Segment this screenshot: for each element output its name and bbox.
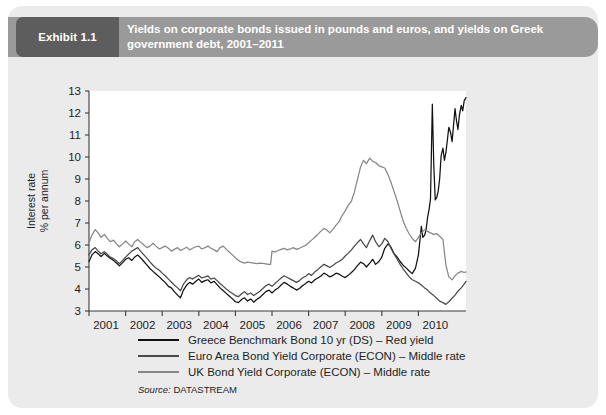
legend-label-euro-area: Euro Area Bond Yield Corporate (ECON) – … <box>188 350 465 362</box>
legend-item-uk: UK Bond Yield Corporate (ECON) – Middle … <box>138 364 558 380</box>
source-line: Source: DATASTREAM <box>138 384 237 395</box>
exhibit-badge-label: Exhibit 1.1 <box>38 31 97 43</box>
svg-text:% per annum: % per annum <box>38 170 50 233</box>
svg-text:2001: 2001 <box>93 319 119 331</box>
plot-background <box>89 91 466 311</box>
chart-plot-area: 345678910111213 200120022003200420052006… <box>8 64 598 334</box>
svg-text:2006: 2006 <box>276 319 302 331</box>
svg-text:2003: 2003 <box>166 319 192 331</box>
legend-item-euro-area: Euro Area Bond Yield Corporate (ECON) – … <box>138 348 558 364</box>
y-axis: 345678910111213 <box>68 85 89 317</box>
svg-text:3: 3 <box>75 305 81 317</box>
svg-text:7: 7 <box>75 217 81 229</box>
svg-text:5: 5 <box>75 261 81 273</box>
legend-swatch-euro-area <box>138 355 179 357</box>
svg-text:2010: 2010 <box>423 319 449 331</box>
svg-text:4: 4 <box>75 283 82 295</box>
exhibit-title: Yields on corporate bonds issued in poun… <box>127 22 582 52</box>
svg-text:6: 6 <box>75 239 81 251</box>
svg-text:2004: 2004 <box>203 319 229 331</box>
svg-text:11: 11 <box>69 129 81 141</box>
legend-label-greece: Greece Benchmark Bond 10 yr (DS) – Red y… <box>188 334 433 346</box>
svg-text:2009: 2009 <box>386 319 412 331</box>
svg-text:2005: 2005 <box>240 319 266 331</box>
svg-text:2007: 2007 <box>313 319 339 331</box>
svg-text:9: 9 <box>75 173 81 185</box>
line-chart: 345678910111213 200120022003200420052006… <box>8 64 598 334</box>
svg-text:13: 13 <box>68 85 81 97</box>
svg-text:Interest rate: Interest rate <box>25 173 37 229</box>
exhibit-card: Exhibit 1.1 Yields on corporate bonds is… <box>8 6 598 408</box>
exhibit-badge: Exhibit 1.1 <box>16 17 119 57</box>
exhibit-header: Exhibit 1.1 Yields on corporate bonds is… <box>8 17 598 57</box>
chart-legend: Greece Benchmark Bond 10 yr (DS) – Red y… <box>138 332 558 380</box>
y-axis-title: Interest rate% per annum <box>25 170 50 233</box>
legend-swatch-greece <box>138 339 179 341</box>
svg-text:12: 12 <box>68 107 81 119</box>
legend-item-greece: Greece Benchmark Bond 10 yr (DS) – Red y… <box>138 332 558 348</box>
legend-label-uk: UK Bond Yield Corporate (ECON) – Middle … <box>188 366 430 378</box>
source-value: DATASTREAM <box>173 384 237 395</box>
svg-text:8: 8 <box>75 195 81 207</box>
x-axis: 2001200220032004200520062007200820092010 <box>89 311 466 331</box>
source-label: Source: <box>138 384 171 395</box>
legend-swatch-uk <box>138 371 179 373</box>
svg-text:2008: 2008 <box>349 319 375 331</box>
svg-text:2002: 2002 <box>130 319 156 331</box>
svg-text:10: 10 <box>68 151 81 163</box>
